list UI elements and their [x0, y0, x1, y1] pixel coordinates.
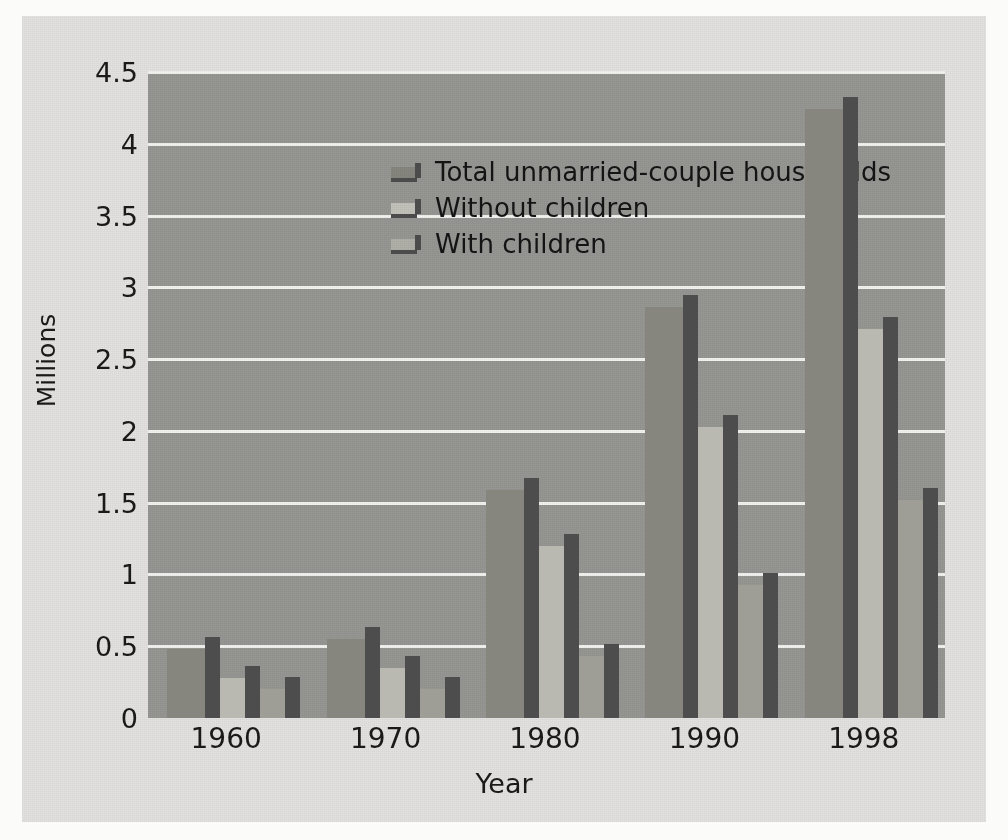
bar-total-1970 — [327, 639, 365, 718]
legend-swatch-without-children-icon — [391, 199, 421, 218]
bar-side-face — [405, 656, 420, 718]
y-tick-label: 1.5 — [58, 487, 138, 518]
y-tick-label: 2.5 — [58, 344, 138, 375]
y-tick-label: 3 — [58, 272, 138, 303]
bar-side-face — [883, 317, 898, 718]
chart-figure: Millions 00.511.522.533.544.5 Total unma… — [22, 16, 986, 822]
legend-label-without-children: Without children — [435, 193, 649, 223]
bar-side-face — [285, 677, 300, 718]
legend-swatch-with-children-icon — [391, 235, 421, 254]
x-axis-tick-labels: 19601970198019901998 — [148, 722, 945, 766]
legend-swatch-total-icon — [391, 163, 421, 182]
bar-side-face — [763, 573, 778, 719]
bar-total-1960 — [167, 649, 205, 718]
y-tick-label: 0.5 — [58, 631, 138, 662]
y-tick-label: 0 — [58, 703, 138, 734]
x-axis-label: Year — [22, 768, 986, 799]
y-tick-label: 4.5 — [58, 57, 138, 88]
bar-front-face — [805, 109, 843, 718]
bar-side-face — [445, 677, 460, 718]
y-tick-label: 1 — [58, 559, 138, 590]
y-tick-label: 3.5 — [58, 200, 138, 231]
bar-total-1990 — [645, 307, 683, 718]
bar-side-face — [923, 488, 938, 718]
bar-total-1998 — [805, 109, 843, 718]
gridline — [148, 71, 945, 74]
legend-label-with-children: With children — [435, 229, 607, 259]
bar-front-face — [645, 307, 683, 718]
x-tick-label: 1980 — [509, 722, 580, 755]
bar-front-face — [327, 639, 365, 718]
bar-side-face — [843, 97, 858, 718]
x-tick-label: 1990 — [669, 722, 740, 755]
bar-front-face — [486, 490, 524, 718]
bar-side-face — [683, 295, 698, 718]
bar-side-face — [524, 478, 539, 718]
bar-side-face — [723, 415, 738, 718]
x-tick-label: 1998 — [828, 722, 899, 755]
bar-side-face — [564, 534, 579, 718]
bar-total-1980 — [486, 490, 524, 718]
bar-front-face — [167, 649, 205, 718]
plot-area: Total unmarried-couple households Withou… — [148, 72, 945, 718]
bar-side-face — [365, 627, 380, 718]
y-axis-tick-labels: 00.511.522.533.544.5 — [22, 72, 138, 718]
x-tick-label: 1970 — [350, 722, 421, 755]
x-tick-label: 1960 — [191, 722, 262, 755]
bar-side-face — [604, 644, 619, 718]
bar-side-face — [245, 666, 260, 718]
y-tick-label: 2 — [58, 415, 138, 446]
bar-side-face — [205, 637, 220, 718]
y-tick-label: 4 — [58, 128, 138, 159]
